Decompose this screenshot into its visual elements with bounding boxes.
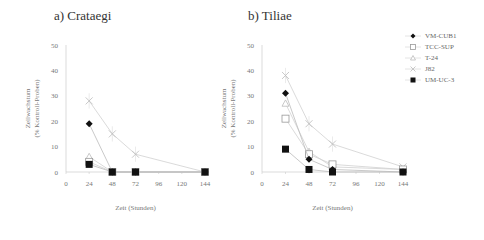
y-tick-label: 30	[247, 92, 255, 100]
series-vm-cub1	[86, 120, 209, 175]
legend-label: UM-UC-3	[425, 76, 454, 84]
x-tick-label: 144	[200, 180, 211, 188]
x-tick-label: 72	[329, 180, 337, 188]
x-tick-label: 48	[306, 180, 314, 188]
legend-marker-icon	[404, 42, 422, 52]
legend-marker-icon	[404, 64, 422, 74]
y-axis-label: Zellwachstum	[24, 88, 32, 128]
x-tick-label: 0	[64, 180, 68, 188]
legend-item: VM-CUB1	[404, 30, 457, 41]
y-tick-label: 10	[51, 143, 59, 151]
y-tick-label: 30	[51, 92, 59, 100]
y-tick-label: 50	[51, 42, 59, 50]
legend-label: T-24	[425, 54, 438, 62]
legend-label: TCC-SUP	[425, 43, 454, 51]
y-tick-label: 0	[251, 169, 255, 177]
series-j82	[282, 68, 407, 171]
x-tick-label: 0	[260, 180, 264, 188]
legend-marker-icon	[404, 31, 422, 41]
chart-tiliae: 01020304050024487296120144Zeit (Stunden)…	[220, 42, 409, 213]
y-axis-label: Zellwachstum	[220, 88, 228, 128]
x-tick-label: 24	[282, 180, 290, 188]
x-tick-label: 72	[132, 180, 140, 188]
legend-item: TCC-SUP	[404, 41, 457, 52]
y-axis-label-2: (% Kontroll-Proben)	[33, 79, 41, 138]
x-tick-label: 24	[86, 180, 94, 188]
y-tick-label: 20	[51, 118, 59, 126]
x-tick-label: 120	[374, 180, 385, 188]
series-j82	[86, 93, 209, 175]
y-tick-label: 40	[247, 67, 255, 75]
y-tick-label: 0	[55, 169, 59, 177]
x-tick-label: 96	[155, 180, 163, 188]
series-t-24	[86, 153, 209, 175]
series-um-uc-3	[282, 146, 407, 176]
legend: VM-CUB1TCC-SUPT-24J82UM-UC-3	[404, 30, 457, 85]
legend-label: J82	[425, 65, 435, 73]
legend-marker-icon	[404, 75, 422, 85]
y-tick-label: 40	[51, 67, 59, 75]
x-axis-label: Zeit (Stunden)	[312, 204, 353, 212]
legend-item: UM-UC-3	[404, 74, 457, 85]
y-tick-label: 20	[247, 118, 255, 126]
x-tick-label: 48	[109, 180, 117, 188]
chart-crataegi: 01020304050024487296120144Zeit (Stunden)…	[24, 42, 211, 213]
y-axis-label-2: (% Kontroll-Proben)	[229, 79, 237, 138]
x-tick-label: 120	[177, 180, 188, 188]
x-axis-label: Zeit (Stunden)	[115, 204, 156, 212]
legend-item: T-24	[404, 52, 457, 63]
y-tick-label: 50	[247, 42, 255, 50]
x-tick-label: 144	[398, 180, 409, 188]
legend-label: VM-CUB1	[425, 32, 457, 40]
x-tick-label: 96	[353, 180, 361, 188]
series-tcc-sup	[282, 115, 407, 173]
legend-item: J82	[404, 63, 457, 74]
y-tick-label: 10	[247, 143, 255, 151]
legend-marker-icon	[404, 53, 422, 63]
